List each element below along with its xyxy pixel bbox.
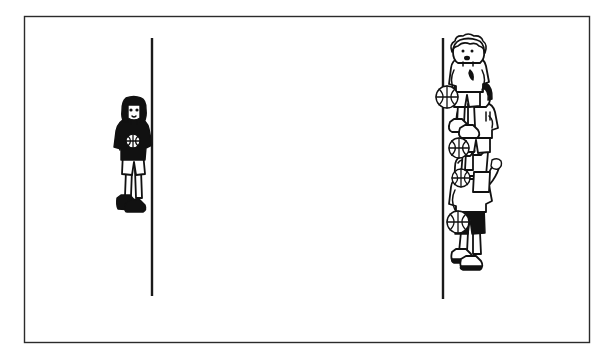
- child-top-right-eye: [471, 50, 474, 53]
- basketball-bottom-right-seams: [447, 211, 469, 233]
- child-bottom-hand: [491, 159, 502, 169]
- child-bottom-right-leg: [473, 232, 481, 254]
- illustration-canvas: [0, 0, 613, 360]
- child-third-shorts: [473, 172, 490, 192]
- basketball-top-right-seams: [436, 86, 458, 108]
- scene-svg: [0, 0, 613, 360]
- basketball-third-right-seams: [452, 169, 470, 187]
- child-alone-right-eye: [135, 108, 138, 111]
- child-alone-left-eye: [129, 108, 132, 111]
- basketball-second-right-seams: [449, 138, 469, 158]
- child-top-left-eye: [462, 50, 465, 53]
- basketball-left-child-seams: [126, 134, 140, 148]
- child-top-mouth: [464, 56, 470, 61]
- page-background: [0, 0, 613, 360]
- child-bottom-right-shoe-sole: [460, 266, 481, 270]
